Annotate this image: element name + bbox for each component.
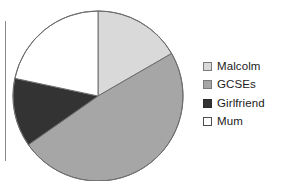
pie-slice-group xyxy=(13,11,183,181)
legend-swatch-girlfriend xyxy=(203,99,212,108)
legend-label-girlfriend: Girlfriend xyxy=(217,98,265,110)
legend-swatch-malcolm xyxy=(203,62,212,71)
legend-label-malcolm: Malcolm xyxy=(217,61,261,73)
legend-label-gcses: GCSEs xyxy=(217,79,256,91)
pie-chart-plot-area xyxy=(0,0,196,181)
legend-swatch-gcses xyxy=(203,80,212,89)
chart-legend: Malcolm GCSEs Girlfriend Mum xyxy=(203,57,284,131)
legend-item-malcolm[interactable]: Malcolm xyxy=(203,57,284,76)
legend-item-gcses[interactable]: GCSEs xyxy=(203,76,284,95)
legend-label-mum: Mum xyxy=(217,116,243,128)
legend-item-mum[interactable]: Mum xyxy=(203,113,284,132)
pie-chart-figure: Malcolm GCSEs Girlfriend Mum xyxy=(0,0,284,181)
legend-item-girlfriend[interactable]: Girlfriend xyxy=(203,94,284,113)
legend-swatch-mum xyxy=(203,117,212,126)
pie-chart-svg xyxy=(0,0,196,181)
